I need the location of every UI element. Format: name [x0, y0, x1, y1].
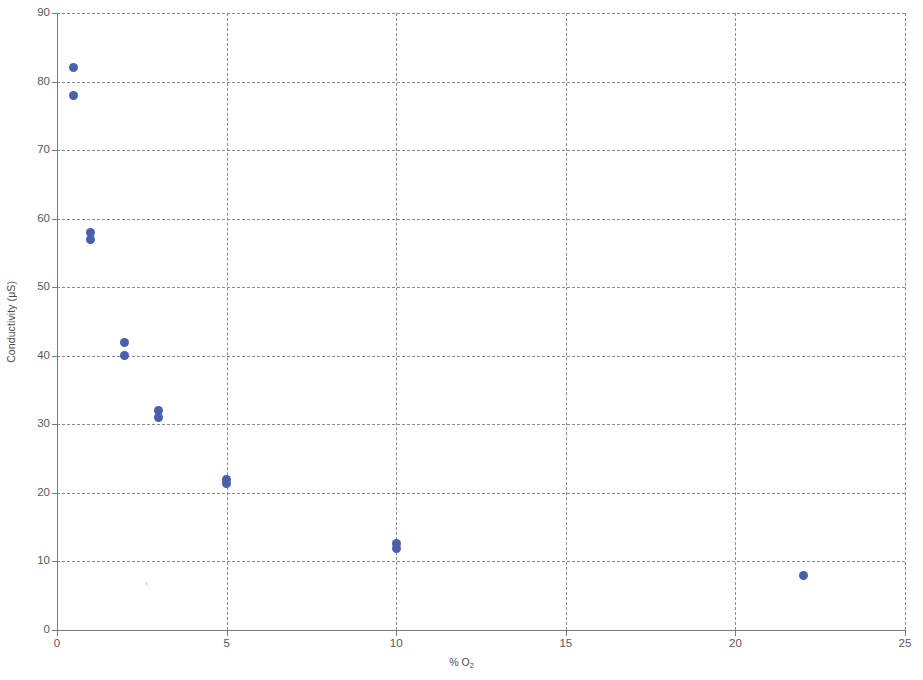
data-point: [120, 338, 129, 347]
tick-label-y: 60: [10, 213, 50, 225]
gridline-horizontal: [57, 219, 905, 220]
scan-artifact-speck: [145, 582, 148, 585]
y-axis-tick-labels: 0102030405060708090: [8, 0, 50, 680]
tick-mark-x: [566, 630, 567, 636]
data-point: [154, 413, 163, 422]
tick-mark-y: [52, 150, 58, 151]
tick-mark-y: [52, 356, 58, 357]
tick-label-x: 5: [207, 638, 247, 650]
gridline-horizontal: [57, 424, 905, 425]
data-point: [86, 235, 95, 244]
tick-label-y: 90: [10, 7, 50, 19]
tick-label-y: 80: [10, 76, 50, 88]
data-point: [120, 351, 129, 360]
tick-mark-y: [52, 13, 58, 14]
tick-mark-y: [52, 493, 58, 494]
gridline-horizontal: [57, 356, 905, 357]
gridline-vertical: [566, 13, 567, 630]
x-axis-title: % O2: [0, 656, 923, 668]
tick-label-y: 40: [10, 350, 50, 362]
tick-label-x: 0: [37, 638, 77, 650]
x-axis-line: [57, 630, 905, 631]
tick-label-y: 30: [10, 419, 50, 431]
tick-label-x: 15: [546, 638, 586, 650]
data-point: [69, 63, 78, 72]
gridline-horizontal: [57, 287, 905, 288]
plot-area: [57, 13, 905, 630]
tick-label-y: 50: [10, 281, 50, 293]
tick-label-y: 0: [10, 624, 50, 636]
gridline-vertical: [227, 13, 228, 630]
gridline-vertical: [905, 13, 906, 630]
gridline-horizontal: [57, 82, 905, 83]
tick-label-x: 20: [715, 638, 755, 650]
tick-mark-y: [52, 424, 58, 425]
data-point: [392, 544, 401, 553]
x-axis-tick-labels: 0510152025: [0, 638, 923, 658]
data-point: [222, 479, 231, 488]
gridline-horizontal: [57, 493, 905, 494]
x-axis-title-text: % O2: [449, 656, 474, 668]
tick-label-x: 10: [376, 638, 416, 650]
data-point: [69, 91, 78, 100]
gridline-horizontal: [57, 13, 905, 14]
tick-label-y: 20: [10, 487, 50, 499]
tick-mark-y: [52, 82, 58, 83]
tick-mark-x: [227, 630, 228, 636]
scatter-chart: Conductivity (μS) 0102030405060708090 05…: [0, 0, 923, 680]
y-axis-line: [57, 13, 58, 630]
gridline-horizontal: [57, 561, 905, 562]
gridline-horizontal: [57, 150, 905, 151]
tick-mark-y: [52, 287, 58, 288]
tick-label-y: 70: [10, 144, 50, 156]
tick-label-x: 25: [885, 638, 923, 650]
tick-mark-y: [52, 219, 58, 220]
tick-mark-y: [52, 561, 58, 562]
tick-mark-x: [905, 630, 906, 636]
gridline-vertical: [396, 13, 397, 630]
tick-mark-x: [396, 630, 397, 636]
tick-mark-x: [735, 630, 736, 636]
data-point: [799, 571, 808, 580]
gridline-vertical: [735, 13, 736, 630]
tick-mark-x: [57, 630, 58, 636]
tick-label-y: 10: [10, 556, 50, 568]
